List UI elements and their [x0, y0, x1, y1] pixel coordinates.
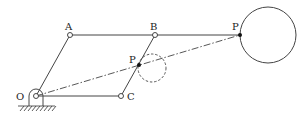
- large-traced-circle: [240, 7, 296, 63]
- link-OA: [36, 35, 70, 96]
- joint-A: [68, 33, 73, 38]
- joint-B: [153, 33, 158, 38]
- label-C: C: [127, 91, 135, 102]
- label-P-small: P: [129, 54, 136, 65]
- point-P-small: [137, 63, 141, 67]
- label-P-large: P: [232, 21, 239, 32]
- label-A: A: [64, 21, 73, 32]
- label-B: B: [150, 21, 157, 32]
- point-P-large: [238, 33, 242, 37]
- pantograph-diagram: O A B C P P: [0, 0, 307, 117]
- joint-C: [119, 94, 124, 99]
- ground-hatch: [18, 106, 56, 111]
- joint-O: [34, 94, 39, 99]
- label-O: O: [16, 91, 24, 102]
